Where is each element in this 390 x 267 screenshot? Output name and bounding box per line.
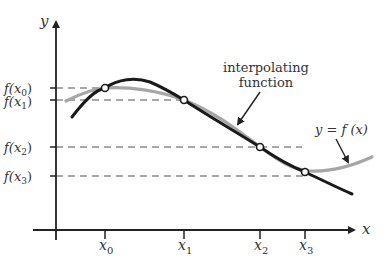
true-function-arrow bbox=[336, 139, 348, 162]
y-tick-label-1: f(x1) bbox=[3, 94, 32, 111]
interpolation-nodes bbox=[102, 85, 309, 176]
node-x1 bbox=[181, 97, 188, 104]
x-tick-labels: x0 x1 x2 x3 bbox=[99, 237, 313, 256]
true-function-label: y = f (x) bbox=[314, 122, 368, 137]
interpolating-label-line2: function bbox=[239, 75, 294, 90]
x-tick-label-1: x1 bbox=[178, 237, 192, 256]
y-tick-labels: f(x0) f(x1) f(x2) f(x3) bbox=[3, 81, 32, 186]
y-axis-label: y bbox=[39, 12, 49, 30]
node-x0 bbox=[102, 85, 109, 92]
y-tick-label-3: f(x3) bbox=[3, 169, 32, 186]
interpolating-function-curve bbox=[72, 79, 352, 194]
node-x2 bbox=[257, 144, 264, 151]
x-tick-label-3: x3 bbox=[299, 237, 313, 256]
interpolating-label-line1: interpolating bbox=[223, 60, 309, 75]
node-x3 bbox=[302, 169, 309, 176]
interpolation-diagram: y x x0 x1 x2 x3 f(x0) f(x1) f(x2) f(x3) … bbox=[0, 0, 390, 267]
x-tick-label-0: x0 bbox=[99, 237, 113, 256]
x-tick-marks bbox=[105, 230, 305, 239]
y-tick-label-2: f(x2) bbox=[3, 140, 32, 157]
x-tick-label-2: x2 bbox=[254, 237, 268, 256]
x-axis-label: x bbox=[362, 220, 371, 238]
interpolating-arrow bbox=[238, 92, 260, 124]
